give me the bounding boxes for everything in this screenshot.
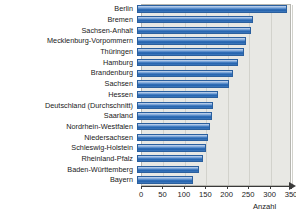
bar-cell bbox=[137, 111, 296, 122]
bar[interactable] bbox=[137, 48, 244, 55]
bar[interactable] bbox=[137, 59, 238, 66]
bar-cell bbox=[137, 90, 296, 101]
bar-cell bbox=[137, 36, 296, 47]
x-axis-tick-label: 250 bbox=[242, 190, 255, 199]
bar-rows: BerlinBremenSachsen-AnhaltMecklenburg-Vo… bbox=[0, 4, 296, 186]
bar-row: Nordrhein-Westfalen bbox=[0, 122, 296, 133]
bar-cell bbox=[137, 57, 296, 68]
bar-cell bbox=[137, 175, 296, 186]
bar-cell bbox=[137, 68, 296, 79]
bar-cell bbox=[137, 25, 296, 36]
bar[interactable] bbox=[137, 112, 212, 119]
bar-cell bbox=[137, 100, 296, 111]
bar[interactable] bbox=[137, 166, 199, 173]
category-label: Hamburg bbox=[0, 59, 137, 67]
category-label: Hessen bbox=[0, 91, 137, 99]
x-axis-tick-label: 50 bbox=[158, 190, 166, 199]
bar[interactable] bbox=[137, 102, 213, 109]
bar-cell bbox=[137, 79, 296, 90]
x-axis-tick bbox=[227, 186, 228, 189]
bar-cell bbox=[137, 4, 296, 15]
x-axis-tick bbox=[270, 186, 271, 189]
category-label: Deutschland (Durchschnitt) bbox=[0, 102, 137, 110]
bar[interactable] bbox=[137, 37, 246, 44]
bar-row: Niedersachsen bbox=[0, 132, 296, 143]
bar-row: Sachsen-Anhalt bbox=[0, 25, 296, 36]
bar-row: Baden-Württemberg bbox=[0, 164, 296, 175]
bar-cell bbox=[137, 47, 296, 58]
bar[interactable] bbox=[137, 91, 218, 98]
x-axis-tick-label: 300 bbox=[263, 190, 276, 199]
category-label: Baden-Württemberg bbox=[0, 166, 137, 174]
bar[interactable] bbox=[137, 16, 253, 23]
bar-row: Berlin bbox=[0, 4, 296, 15]
category-label: Nordrhein-Westfalen bbox=[0, 123, 137, 131]
x-axis-tick-label: 200 bbox=[220, 190, 233, 199]
bar-cell bbox=[137, 143, 296, 154]
x-axis-tick bbox=[291, 186, 292, 189]
bar-row: Hessen bbox=[0, 90, 296, 101]
bar[interactable] bbox=[137, 155, 203, 162]
bar-row: Sachsen bbox=[0, 79, 296, 90]
bar[interactable] bbox=[137, 176, 193, 183]
category-label: Rheinland-Pfalz bbox=[0, 155, 137, 163]
x-axis-tick-label: 150 bbox=[199, 190, 212, 199]
x-axis-tick-label: 350 bbox=[285, 190, 296, 199]
bar-row: Bremen bbox=[0, 15, 296, 26]
bar-row: Thüringen bbox=[0, 47, 296, 58]
bar[interactable] bbox=[137, 70, 233, 77]
bar-row: Mecklenburg-Vorpommern bbox=[0, 36, 296, 47]
bar[interactable] bbox=[137, 123, 210, 130]
category-label: Sachsen bbox=[0, 80, 137, 88]
x-axis-tick bbox=[205, 186, 206, 189]
x-axis-title: Anzahl bbox=[253, 202, 276, 211]
bar[interactable] bbox=[137, 27, 251, 34]
bar-row: Rheinland-Pfalz bbox=[0, 154, 296, 165]
category-label: Brandenburg bbox=[0, 69, 137, 77]
x-axis-tick bbox=[184, 186, 185, 189]
bar-row: Saarland bbox=[0, 111, 296, 122]
bar-cell bbox=[137, 132, 296, 143]
category-label: Bremen bbox=[0, 16, 137, 24]
bar-row: Bayern bbox=[0, 175, 296, 186]
bar-row: Deutschland (Durchschnitt) bbox=[0, 100, 296, 111]
category-label: Thüringen bbox=[0, 48, 137, 56]
bar[interactable] bbox=[137, 5, 287, 12]
x-axis-tick bbox=[162, 186, 163, 189]
category-label: Berlin bbox=[0, 5, 137, 13]
x-axis-tick-label: 0 bbox=[139, 190, 143, 199]
bar-cell bbox=[137, 164, 296, 175]
category-label: Niedersachsen bbox=[0, 134, 137, 142]
bar-row: Schleswig-Holstein bbox=[0, 143, 296, 154]
category-label: Sachsen-Anhalt bbox=[0, 27, 137, 35]
bar[interactable] bbox=[137, 144, 206, 151]
category-label: Schleswig-Holstein bbox=[0, 144, 137, 152]
bar-chart: BerlinBremenSachsen-AnhaltMecklenburg-Vo… bbox=[0, 0, 296, 223]
x-axis-tick bbox=[141, 186, 142, 189]
category-label: Saarland bbox=[0, 112, 137, 120]
bar-cell bbox=[137, 15, 296, 26]
category-label: Bayern bbox=[0, 176, 137, 184]
x-axis-tick bbox=[248, 186, 249, 189]
bar[interactable] bbox=[137, 134, 208, 141]
bar-row: Brandenburg bbox=[0, 68, 296, 79]
bar-cell bbox=[137, 154, 296, 165]
bar-row: Hamburg bbox=[0, 57, 296, 68]
x-axis-tick-label: 100 bbox=[178, 190, 191, 199]
category-label: Mecklenburg-Vorpommern bbox=[0, 37, 137, 45]
bar[interactable] bbox=[137, 80, 229, 87]
bar-cell bbox=[137, 122, 296, 133]
